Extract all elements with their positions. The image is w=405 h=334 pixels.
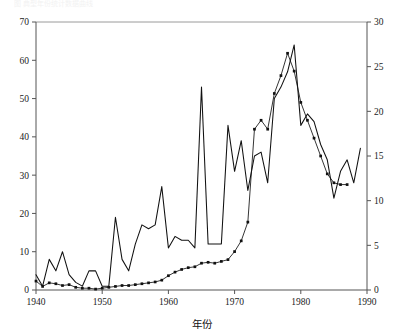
data-point-marker [147,282,150,285]
data-point-marker [48,282,51,285]
data-point-marker [246,221,249,224]
plot-area: 0102030405060700510152025301940195019601… [0,0,405,334]
data-point-marker [114,285,117,288]
y-tick-label-left: 20 [20,209,30,219]
data-point-marker [293,70,296,73]
data-point-marker [233,250,236,253]
data-point-marker [194,265,197,268]
y-tick-label-right: 5 [374,241,379,251]
data-point-marker [280,74,283,77]
data-point-marker [339,183,342,186]
data-point-marker [286,52,289,55]
data-point-marker [240,240,243,243]
y-tick-label-left: 60 [20,56,30,66]
data-point-marker [41,285,44,288]
chart-figure: 图 典型年份统计数据曲线 010203040506070051015202530… [0,0,405,334]
x-axis-title: 年份 [192,318,213,330]
series-line-solid-line-left-axis [36,45,360,286]
data-point-marker [74,286,77,289]
data-point-marker [154,281,157,284]
data-point-marker [200,262,203,265]
data-point-marker [61,284,64,287]
data-point-marker [68,283,71,286]
data-point-marker [333,181,336,184]
data-point-marker [35,280,38,283]
x-tick-label: 1960 [159,297,178,307]
y-tick-label-left: 50 [20,94,30,104]
data-point-marker [81,287,84,290]
y-tick-label-left: 30 [20,171,30,181]
data-point-marker [107,286,110,289]
data-point-marker [346,183,349,186]
data-point-marker [253,128,256,131]
data-point-marker [55,282,58,285]
data-point-marker [299,101,302,104]
x-tick-label: 1980 [291,297,310,307]
y-tick-label-left: 10 [20,247,30,257]
data-point-marker [187,266,190,269]
data-point-marker [313,137,316,140]
series-line-marked-line-right-axis [36,53,347,289]
data-point-marker [121,284,124,287]
y-tick-label-right: 15 [374,151,384,161]
y-tick-label-right: 0 [374,285,379,295]
y-tick-label-right: 10 [374,196,384,206]
data-point-marker [207,261,210,264]
chart-canvas: 0102030405060700510152025301940195019601… [0,0,405,334]
data-point-marker [213,262,216,265]
y-tick-label-right: 25 [374,62,384,72]
data-point-marker [266,128,269,131]
data-point-marker [167,274,170,277]
x-tick-label: 1950 [93,297,112,307]
y-tick-label-right: 30 [374,17,384,27]
data-point-marker [127,284,130,287]
data-point-marker [319,155,322,158]
y-tick-label-left: 0 [24,285,29,295]
data-point-marker [180,268,183,271]
data-point-marker [134,283,137,286]
data-point-marker [160,279,163,282]
data-point-marker [326,173,329,176]
data-point-marker [174,271,177,274]
x-tick-label: 1940 [27,297,46,307]
data-point-marker [306,119,309,122]
data-point-marker [273,92,276,95]
data-point-marker [141,282,144,285]
x-tick-label: 1990 [358,297,377,307]
y-tick-label-right: 20 [374,107,384,117]
data-point-marker [94,288,97,291]
data-point-marker [88,287,91,290]
y-tick-label-left: 40 [20,132,30,142]
y-tick-label-left: 70 [20,17,30,27]
x-tick-label: 1970 [225,297,244,307]
data-point-marker [101,287,104,290]
data-point-marker [220,260,223,263]
data-point-marker [260,119,263,122]
data-point-marker [227,258,230,261]
